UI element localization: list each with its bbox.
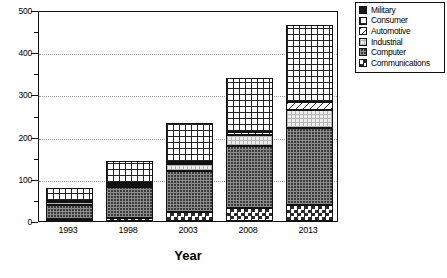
bar-segment	[286, 110, 333, 128]
bar-segment	[226, 208, 273, 221]
y-axis-tick-label: 500	[18, 7, 32, 16]
bar-segment	[106, 187, 153, 218]
legend-item-label: Computer	[371, 48, 406, 56]
bar-segment	[166, 162, 213, 165]
x-axis-tick-label: 1998	[98, 226, 158, 235]
bar-group	[46, 10, 93, 221]
y-axis: 0100200300400500	[0, 0, 38, 233]
bar-segment	[286, 205, 333, 221]
bar-segment	[166, 171, 213, 212]
bar-segment	[286, 25, 333, 102]
legend-swatch-icon	[359, 38, 367, 46]
bar-segment	[226, 146, 273, 208]
y-axis-tick-major	[31, 138, 38, 139]
bar-segment	[106, 161, 153, 183]
legend-swatch-icon	[359, 59, 367, 67]
bar-segment	[286, 102, 333, 110]
legend-item: Computer	[359, 47, 442, 57]
legend-item: Industrial	[359, 37, 442, 47]
legend-item-label: Consumer	[371, 16, 408, 24]
legend-item-label: Automotive	[371, 27, 410, 35]
x-axis-tick-label: 2013	[278, 226, 338, 235]
x-axis-tick-label: 1993	[38, 226, 98, 235]
bar-segment	[226, 78, 273, 132]
bar-segment	[166, 164, 213, 171]
x-axis-title: Year	[38, 248, 338, 263]
legend-swatch-icon	[359, 48, 367, 56]
y-axis-tick-label: 100	[18, 176, 32, 185]
bar-segment	[46, 205, 93, 219]
bar-segment	[166, 212, 213, 221]
x-axis-tick-label: 2008	[218, 226, 278, 235]
y-axis-tick-label: 300	[18, 91, 32, 100]
legend: MilitaryConsumerAutomotiveIndustrialComp…	[355, 2, 445, 73]
bar-segment	[166, 123, 213, 162]
bar-segment	[106, 185, 153, 188]
legend-item: Military	[359, 5, 442, 15]
bar-group	[226, 10, 273, 221]
y-axis-tick-major	[31, 95, 38, 96]
legend-item-label: Military	[371, 6, 396, 14]
legend-item: Communications	[359, 58, 442, 68]
bar-group	[106, 10, 153, 221]
bar-segment	[46, 188, 93, 201]
y-axis-tick-label: 200	[18, 133, 32, 142]
chart-container: 0100200300400500 19931998200320082013 Ye…	[0, 0, 447, 278]
bar-segment	[226, 132, 273, 135]
bar-group	[286, 10, 333, 221]
legend-swatch-icon	[359, 17, 367, 25]
y-axis-tick-major	[31, 180, 38, 181]
legend-item-label: Industrial	[371, 38, 402, 46]
legend-swatch-icon	[359, 27, 367, 35]
bar-segment	[46, 202, 93, 205]
x-axis-tick-label: 2003	[158, 226, 218, 235]
bar-segment	[286, 128, 333, 205]
bar-group	[166, 10, 213, 221]
y-axis-tick-major	[31, 222, 38, 223]
legend-item: Automotive	[359, 26, 442, 36]
bar-segment	[106, 218, 153, 221]
legend-item-label: Communications	[371, 59, 430, 67]
y-axis-tick-label: 400	[18, 49, 32, 58]
legend-swatch-icon	[359, 6, 367, 14]
plot-area	[38, 11, 338, 222]
legend-item: Consumer	[359, 16, 442, 26]
bar-segment	[226, 135, 273, 146]
y-axis-tick-major	[31, 11, 38, 12]
bar-series-group	[39, 12, 337, 221]
y-axis-tick-major	[31, 53, 38, 54]
